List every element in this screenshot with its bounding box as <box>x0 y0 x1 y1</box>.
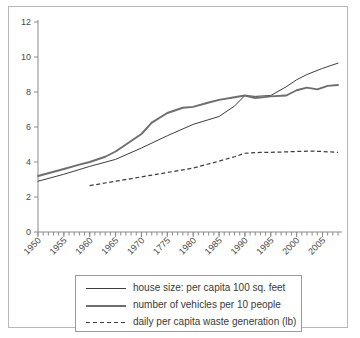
x-tick-label: 1995 <box>254 235 275 256</box>
solid-thick-line-icon <box>86 300 126 310</box>
y-tick-label: 8 <box>26 87 31 97</box>
x-tick-label: 1960 <box>73 235 94 256</box>
x-tick-label: 1970 <box>125 235 146 256</box>
legend-item-waste[interactable]: daily per capita waste generation (lb) <box>76 313 301 330</box>
x-tick-label: 1980 <box>177 235 198 256</box>
legend-item-house-size[interactable]: house size: per capita 100 sq. feet <box>76 279 301 296</box>
legend-label-vehicles: number of vehicles per 10 people <box>133 299 281 310</box>
dashed-line-icon <box>86 317 126 327</box>
y-tick-label: 12 <box>21 17 31 27</box>
x-tick-label: 2005 <box>306 235 327 256</box>
legend-item-vehicles[interactable]: number of vehicles per 10 people <box>76 296 301 313</box>
y-tick-label: 6 <box>26 122 31 132</box>
x-tick-label: 1985 <box>203 235 224 256</box>
x-tick-label: 1955 <box>48 235 69 256</box>
series-line-waste <box>90 151 338 185</box>
legend-label-house-size: house size: per capita 100 sq. feet <box>133 282 285 293</box>
x-tick-label: 1775 <box>151 235 172 256</box>
chart-frame: 0246810121950195519601965197017751980198… <box>8 6 348 328</box>
y-tick-label: 2 <box>26 192 31 202</box>
x-tick-label: 1990 <box>229 235 250 256</box>
y-tick-label: 0 <box>26 227 31 237</box>
legend-label-waste: daily per capita waste generation (lb) <box>133 316 296 327</box>
x-tick-label: 2000 <box>280 235 301 256</box>
x-tick-label: 1950 <box>22 235 43 256</box>
y-tick-label: 4 <box>26 157 31 167</box>
y-tick-label: 10 <box>21 52 31 62</box>
x-tick-label: 1965 <box>99 235 120 256</box>
solid-thin-line-icon <box>86 283 126 293</box>
series-line-vehicles <box>38 85 338 176</box>
chart-legend: house size: per capita 100 sq. feet numb… <box>75 275 302 332</box>
